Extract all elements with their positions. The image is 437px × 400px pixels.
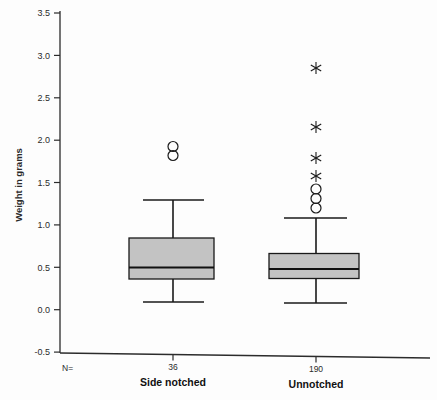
y-tick-label-3.0: 3.0 <box>37 51 50 61</box>
x-axis-line <box>60 353 430 358</box>
y-tick-label-1.5: 1.5 <box>37 178 50 188</box>
count-side-notched: 36 <box>168 362 178 372</box>
y-tick-label--0.5: -0.5 <box>34 347 50 357</box>
outlier-star-unnotched-4 <box>311 170 321 182</box>
y-axis-title: Weight in grams <box>13 148 24 222</box>
y-tick-label-3.5: 3.5 <box>37 8 50 18</box>
box-side-notched <box>129 238 214 279</box>
y-tick-label-0.0: 0.0 <box>37 305 50 315</box>
y-tick-label-2.5: 2.5 <box>37 93 50 103</box>
outlier-star-unnotched-3 <box>311 152 321 164</box>
y-axis-ticks <box>54 13 60 352</box>
boxplot-group-side-notched <box>129 142 214 303</box>
boxplot-group-unnotched <box>269 62 359 303</box>
boxplot-figure: 3.5 3.0 2.5 2.0 1.5 1.0 0.5 0.0 -0.5 Wei… <box>0 0 437 400</box>
boxplot-svg: 3.5 3.0 2.5 2.0 1.5 1.0 0.5 0.0 -0.5 Wei… <box>0 0 437 400</box>
y-axis-tick-labels: 3.5 3.0 2.5 2.0 1.5 1.0 0.5 0.0 -0.5 <box>34 8 50 357</box>
category-label-unnotched: Unnotched <box>289 378 344 390</box>
y-tick-label-0.5: 0.5 <box>37 263 50 273</box>
category-label-side-notched: Side notched <box>140 376 206 388</box>
outlier-star-unnotched-2 <box>311 121 321 133</box>
box-unnotched <box>269 254 359 279</box>
y-tick-label-1.0: 1.0 <box>37 220 50 230</box>
outlier-circle-unnotched-1 <box>311 184 321 194</box>
y-tick-label-2.0: 2.0 <box>37 135 50 145</box>
outlier-circle-unnotched-2 <box>311 194 321 204</box>
outlier-circle-unnotched-3 <box>311 203 321 213</box>
outlier-star-unnotched-1 <box>311 62 321 74</box>
n-equals-label: N= <box>62 363 73 373</box>
count-unnotched: 190 <box>309 364 323 374</box>
